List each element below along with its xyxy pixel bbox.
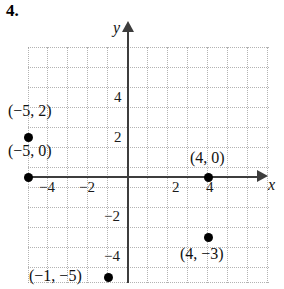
x-tick-label-2: 2 xyxy=(172,180,180,195)
point-label-4-0: (4, 0) xyxy=(190,150,225,166)
gridline-vertical xyxy=(47,47,49,283)
gridline-vertical xyxy=(67,47,69,283)
arrow-right-icon xyxy=(257,170,268,182)
point-label-minus5-0: (−5, 0) xyxy=(8,143,52,159)
y-axis xyxy=(127,30,129,283)
y-tick-label-minus2: −2 xyxy=(104,209,120,224)
arrow-up-icon xyxy=(122,21,134,32)
gridline-vertical xyxy=(267,47,269,283)
y-tick-label-2: 2 xyxy=(114,130,122,145)
data-point xyxy=(104,273,113,282)
gridline-vertical xyxy=(247,47,249,283)
data-point xyxy=(24,173,33,182)
gridline-vertical xyxy=(167,47,169,283)
y-tick-label-minus4: −4 xyxy=(104,249,120,264)
gridline-vertical xyxy=(28,47,30,283)
gridline-vertical xyxy=(147,47,149,283)
x-tick-label-4: 4 xyxy=(206,180,214,195)
data-point xyxy=(24,133,33,142)
gridline-vertical xyxy=(87,47,89,283)
plot-area: y x −4 −2 2 4 4 2 −2 −4 (−5, 2) (−5, 0) … xyxy=(0,0,284,289)
x-tick-label-minus2: −2 xyxy=(79,180,95,195)
point-label-4-minus3: (4, −3) xyxy=(180,246,224,262)
y-axis-label: y xyxy=(113,19,120,37)
gridline-vertical xyxy=(227,47,229,283)
coordinate-plane-figure: 4. xyxy=(0,0,284,289)
data-point xyxy=(204,173,213,182)
grid xyxy=(28,47,269,283)
point-label-minus5-2: (−5, 2) xyxy=(8,103,52,119)
x-axis-label: x xyxy=(268,176,275,194)
point-label-minus1-minus5: (−1, −5) xyxy=(29,268,82,284)
y-tick-label-4: 4 xyxy=(114,90,122,105)
x-tick-label-minus4: −4 xyxy=(39,180,55,195)
data-point xyxy=(204,233,213,242)
x-axis xyxy=(28,176,260,178)
